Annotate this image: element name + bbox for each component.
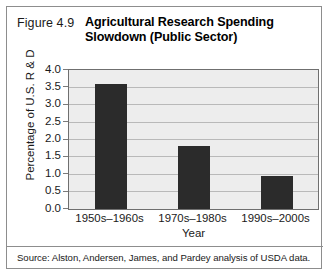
- y-axis-tick-mark: [63, 104, 68, 105]
- y-axis-tick-label: 3.5: [45, 81, 61, 92]
- bar: [95, 84, 127, 209]
- source-divider: [7, 246, 323, 247]
- x-axis-tick-label: 1970s–1980s: [151, 212, 234, 224]
- y-axis-tick-label: 2.5: [45, 116, 61, 127]
- figure-title-line-1: Agricultural Research Spending: [85, 15, 313, 30]
- y-axis-tick-label: 4.0: [45, 64, 61, 75]
- x-axis-tick-label: 1990s–2000s: [234, 212, 317, 224]
- bar: [178, 146, 210, 209]
- figure-panel: Figure 4.9 Agricultural Research Spendin…: [6, 6, 322, 269]
- source-note: Source: Alston, Andersen, James, and Par…: [17, 252, 310, 263]
- y-axis-tick-mark: [63, 191, 68, 192]
- x-axis-tick-labels: 1950s–1960s1970s–1980s1990s–2000s: [68, 212, 319, 228]
- y-axis-tick-label: 0.5: [45, 185, 61, 196]
- y-axis-tick-mark: [63, 69, 68, 70]
- figure-number: Figure 4.9: [17, 16, 74, 30]
- y-axis-tick-mark: [63, 173, 68, 174]
- figure-header: Figure 4.9 Agricultural Research Spendin…: [7, 7, 321, 53]
- y-axis-tick-labels: 4.03.53.02.52.01.51.00.50.0: [30, 53, 61, 225]
- plot-area: [68, 69, 319, 210]
- bar: [261, 176, 293, 209]
- figure-title: Agricultural Research Spending Slowdown …: [85, 15, 313, 45]
- y-axis-tick-label: 1.0: [45, 168, 61, 179]
- y-axis-tick-mark: [63, 86, 68, 87]
- y-axis-tick-label: 3.0: [45, 98, 61, 109]
- x-axis-tick-label: 1950s–1960s: [68, 212, 151, 224]
- y-axis-tick-mark: [63, 208, 68, 209]
- bar-chart: Percentage of U.S. R & D 4.03.53.02.52.0…: [7, 53, 323, 225]
- figure-title-line-2: Slowdown (Public Sector): [85, 30, 313, 45]
- y-axis-tick-mark: [63, 121, 68, 122]
- y-axis-tick-label: 0.0: [45, 203, 61, 214]
- y-axis-tick-label: 1.5: [45, 150, 61, 161]
- y-axis-tick-mark: [63, 139, 68, 140]
- y-axis-tick-label: 2.0: [45, 133, 61, 144]
- x-axis-title: Year: [68, 227, 319, 239]
- y-axis-tick-mark: [63, 156, 68, 157]
